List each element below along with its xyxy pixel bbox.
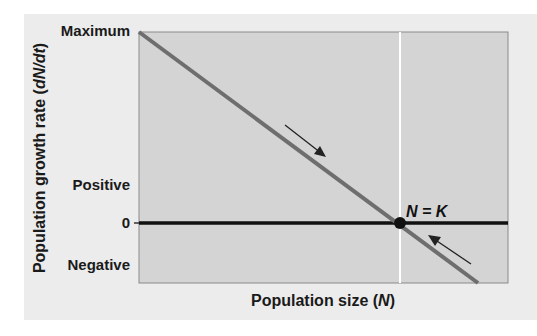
y-tick-positive: Positive — [72, 176, 130, 193]
y-tick-zero: 0 — [122, 214, 130, 231]
x-axis-text: Population size ( — [251, 292, 378, 309]
x-axis-close: ) — [390, 292, 395, 309]
y-axis-close: ) — [31, 43, 48, 48]
y-tick-maximum: Maximum — [61, 22, 130, 39]
chart-plot — [0, 0, 537, 336]
equilibrium-point — [394, 217, 406, 229]
y-axis-label: Population growth rate (dN/dt) — [31, 43, 49, 273]
x-axis-variable: N — [378, 292, 390, 309]
y-axis-text: Population growth rate ( — [31, 89, 48, 273]
y-tick-negative: Negative — [67, 256, 130, 273]
equilibrium-label: N = K — [406, 203, 447, 221]
y-axis-variable: dN/dt — [31, 48, 48, 89]
plot-area — [139, 32, 508, 283]
x-axis-label: Population size (N) — [251, 292, 395, 310]
